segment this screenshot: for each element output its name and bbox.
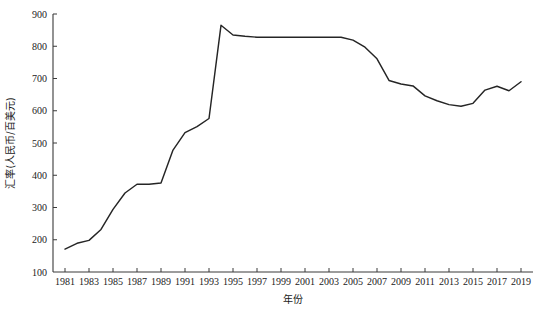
x-axis-tick-label: 1989 <box>151 276 171 287</box>
y-axis-tick-label: 900 <box>32 9 47 20</box>
x-axis-tick-label: 1991 <box>175 276 195 287</box>
chart-background <box>0 0 540 311</box>
x-axis-tick-label: 2013 <box>439 276 459 287</box>
y-axis-title: 汇率(人民币/百美元) <box>4 97 16 188</box>
x-axis-tick-label: 1995 <box>223 276 243 287</box>
x-axis-tick-label: 1997 <box>247 276 267 287</box>
x-axis-tick-label: 1983 <box>79 276 99 287</box>
x-axis-tick-label: 2003 <box>319 276 339 287</box>
x-axis-tick-label: 2007 <box>367 276 387 287</box>
x-axis-title: 年份 <box>283 293 303 305</box>
y-axis-tick-label: 500 <box>32 138 47 149</box>
x-axis-tick-label: 1993 <box>199 276 219 287</box>
y-axis-tick-label: 400 <box>32 170 47 181</box>
x-axis-tick-label: 2019 <box>511 276 531 287</box>
x-axis-tick-label: 2017 <box>487 276 507 287</box>
line-chart: 100200300400500600700800900 198119831985… <box>0 0 540 311</box>
y-axis-tick-label: 100 <box>32 267 47 278</box>
y-axis-tick-label: 200 <box>32 234 47 245</box>
x-axis-tick-label: 1987 <box>127 276 147 287</box>
x-axis-tick-label: 2015 <box>463 276 483 287</box>
x-axis-tick-label: 2011 <box>415 276 435 287</box>
x-axis-tick-label: 2001 <box>295 276 315 287</box>
y-axis-tick-label: 600 <box>32 105 47 116</box>
y-axis: 100200300400500600700800900 <box>32 9 57 278</box>
chart-figure: 100200300400500600700800900 198119831985… <box>0 0 540 311</box>
x-axis-tick-label: 1999 <box>271 276 291 287</box>
x-axis-tick-label: 1985 <box>103 276 123 287</box>
x-axis-tick-label: 1981 <box>55 276 75 287</box>
y-axis-tick-label: 300 <box>32 202 47 213</box>
y-axis-tick-label: 700 <box>32 73 47 84</box>
y-axis-tick-label: 800 <box>32 41 47 52</box>
x-axis-tick-label: 2005 <box>343 276 363 287</box>
x-axis-tick-label: 2009 <box>391 276 411 287</box>
